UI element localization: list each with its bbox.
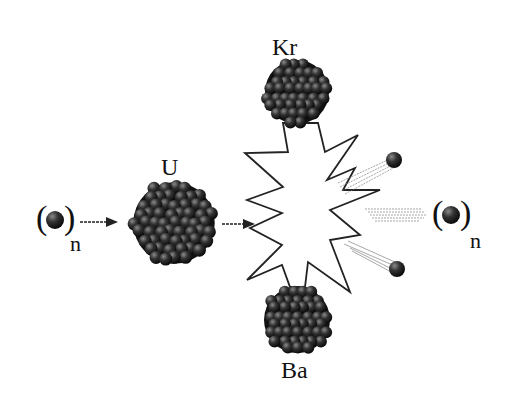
- incoming-neutron-bracket-left: (: [36, 201, 47, 235]
- krypton-label: Kr: [272, 35, 297, 59]
- incoming-neutron-icon: [46, 211, 64, 229]
- incoming-neutron-label: n: [70, 233, 81, 255]
- incoming-neutron-bracket-right: ): [64, 201, 75, 235]
- outgoing-neutron-icon: [442, 206, 460, 224]
- barium-label: Ba: [281, 358, 308, 382]
- emitted-neutron-middle: [365, 209, 426, 221]
- emitted-neutron-lower: [344, 241, 405, 277]
- outgoing-neutron-bracket-left: (: [432, 196, 443, 230]
- outgoing-neutron-bracket-right: ): [460, 196, 471, 230]
- krypton-nucleus-icon: [261, 59, 332, 129]
- arrow-neutron-to-uranium: [80, 217, 118, 227]
- outgoing-neutron-label: n: [470, 230, 481, 252]
- barium-nucleus-icon: [264, 286, 332, 354]
- uranium-nucleus-icon: [128, 180, 218, 266]
- fission-burst-icon: [245, 123, 380, 292]
- uranium-label: U: [161, 155, 178, 179]
